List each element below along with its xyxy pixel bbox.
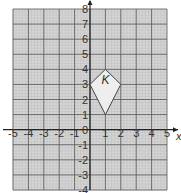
y-tick-label: 6 [82,33,88,45]
y-tick-label: 7 [82,18,88,30]
x-tick-label: -2 [54,127,64,139]
y-tick-label: -2 [78,154,88,166]
y-tick-label: 5 [82,48,88,60]
x-tick-label: -3 [39,127,49,139]
x-tick-label: 3 [133,127,139,139]
shape-label: K [101,73,110,87]
x-tick-label: 5 [164,127,170,139]
y-axis-arrow-icon [88,0,93,5]
y-tick-label: 2 [82,94,88,106]
y-tick-label: -1 [78,139,88,151]
y-tick-label: -4 [78,184,88,193]
y-tick-label: 4 [82,63,88,75]
y-tick-label: 3 [82,78,88,90]
origin-label: 0 [82,124,88,136]
y-tick-label: -3 [78,169,88,181]
coordinate-grid: x-5-4-3-2-11234587654321-1-2-3-40K [0,0,181,193]
x-tick-label: 2 [118,127,124,139]
x-axis-label: x [175,130,181,142]
x-tick-label: -1 [70,127,80,139]
x-tick-label: -4 [24,127,34,139]
y-tick-label: 1 [82,109,88,121]
y-tick-label: 8 [82,3,88,15]
x-tick-label: 1 [102,127,108,139]
x-tick-label: -5 [8,127,18,139]
x-tick-label: 4 [149,127,155,139]
